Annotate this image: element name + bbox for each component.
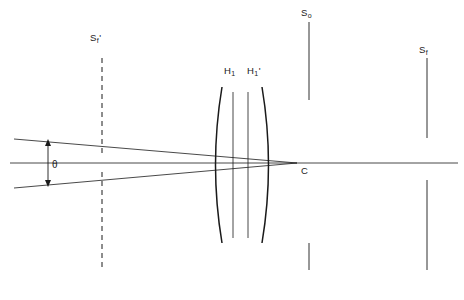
optics-diagram: Sf' So Sf H1 H1' θ C [0, 0, 464, 300]
label-convergence-point-c: C [301, 166, 308, 176]
lens-left-surface [216, 87, 223, 243]
diagram-canvas [0, 0, 464, 300]
label-back-focal-plane: Sf [419, 45, 428, 56]
label-front-focal-plane: Sf' [90, 33, 101, 44]
label-object-plane: So [301, 8, 312, 19]
label-angle-theta: θ [52, 160, 58, 170]
label-principal-plane-h1-prime: H1' [247, 66, 261, 77]
lens-right-surface [262, 87, 269, 243]
label-principal-plane-h1: H1 [224, 66, 236, 77]
